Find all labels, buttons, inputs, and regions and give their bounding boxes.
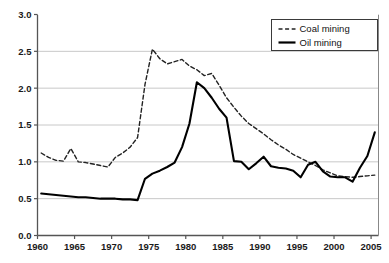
y-tick-label: 1.5 — [18, 119, 32, 130]
y-tick-label: 3.0 — [18, 9, 31, 20]
y-tick-label: 0.5 — [18, 193, 32, 204]
x-tick-label: 1985 — [212, 241, 234, 252]
y-tick-label: 2.0 — [18, 83, 31, 94]
line-chart: 0.00.51.01.52.02.53.0 196019651970197519… — [0, 0, 389, 263]
y-tick-label: 1.0 — [18, 156, 31, 167]
x-tick-label: 1975 — [138, 241, 160, 252]
x-tick-label: 1960 — [27, 241, 48, 252]
x-tick-label: 1990 — [249, 241, 270, 252]
x-tick-label: 2000 — [323, 241, 344, 252]
x-tick-label: 1965 — [64, 241, 86, 252]
chart-canvas: 0.00.51.01.52.02.53.0 196019651970197519… — [0, 0, 389, 263]
x-tick-label: 2005 — [361, 241, 383, 252]
x-tick-label: 1970 — [101, 241, 122, 252]
legend-label-coal-mining: Coal mining — [300, 23, 350, 34]
y-tick-label: 2.5 — [18, 46, 32, 57]
chart-legend: Coal miningOil mining — [272, 20, 378, 51]
x-tick-label: 1980 — [175, 241, 196, 252]
y-tick-label: 0.0 — [18, 230, 31, 241]
legend-label-oil-mining: Oil mining — [300, 37, 342, 48]
x-tick-label: 1995 — [286, 241, 308, 252]
